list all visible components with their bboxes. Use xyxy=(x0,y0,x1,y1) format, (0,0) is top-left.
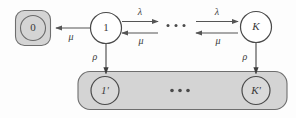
state-label-one-prime: 1' xyxy=(101,84,110,96)
rate-label-mu-mid-to-one: μ xyxy=(137,35,143,46)
ellipsis-top xyxy=(167,24,186,27)
state-label-one: 1 xyxy=(103,21,109,33)
rate-label-mu-k-to-mid: μ xyxy=(214,35,220,46)
rate-label-lambda-mid-to-k: λ xyxy=(214,6,220,17)
state-label-zero: 0 xyxy=(30,21,36,33)
rate-label-rho-one-to-one-prime: ρ xyxy=(92,51,98,62)
state-label-k: K xyxy=(251,20,260,32)
state-label-k-prime: K' xyxy=(250,84,261,96)
state-transition-diagram: 0 1 K 1' K' μ λ μ λ μ ρ ρ xyxy=(0,0,296,118)
rate-label-rho-k-to-k-prime: ρ xyxy=(242,51,248,62)
rate-label-lambda-one-to-mid: λ xyxy=(137,6,143,17)
diagram-canvas: 0 1 K 1' K' μ λ μ λ μ ρ ρ xyxy=(0,0,296,118)
rate-label-mu-one-to-zero: μ xyxy=(67,31,73,42)
ellipsis-bottom xyxy=(170,89,190,93)
